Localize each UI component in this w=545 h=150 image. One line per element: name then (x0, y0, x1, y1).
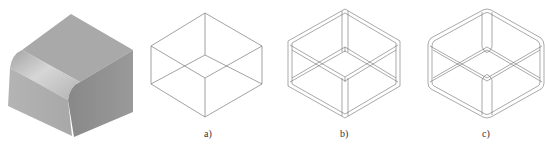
wireframe-c (428, 9, 544, 118)
wireframe-a (151, 13, 262, 117)
solid-block (8, 14, 133, 137)
panel-label-a: a) (204, 128, 212, 139)
panel-label-b: b) (340, 128, 348, 139)
panel-label-c: c) (482, 128, 490, 139)
wireframe-b (288, 9, 400, 118)
figure-canvas (0, 0, 545, 150)
